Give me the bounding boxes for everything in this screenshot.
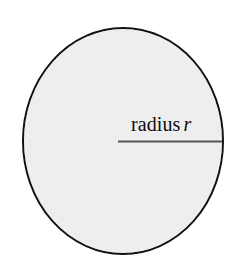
radius-label-text: radius [131,113,180,135]
radius-label-variable: r [180,113,191,135]
figure-canvas [0,0,242,267]
circle-radius-figure: radiusr [0,0,242,267]
radius-label: radiusr [131,112,191,136]
